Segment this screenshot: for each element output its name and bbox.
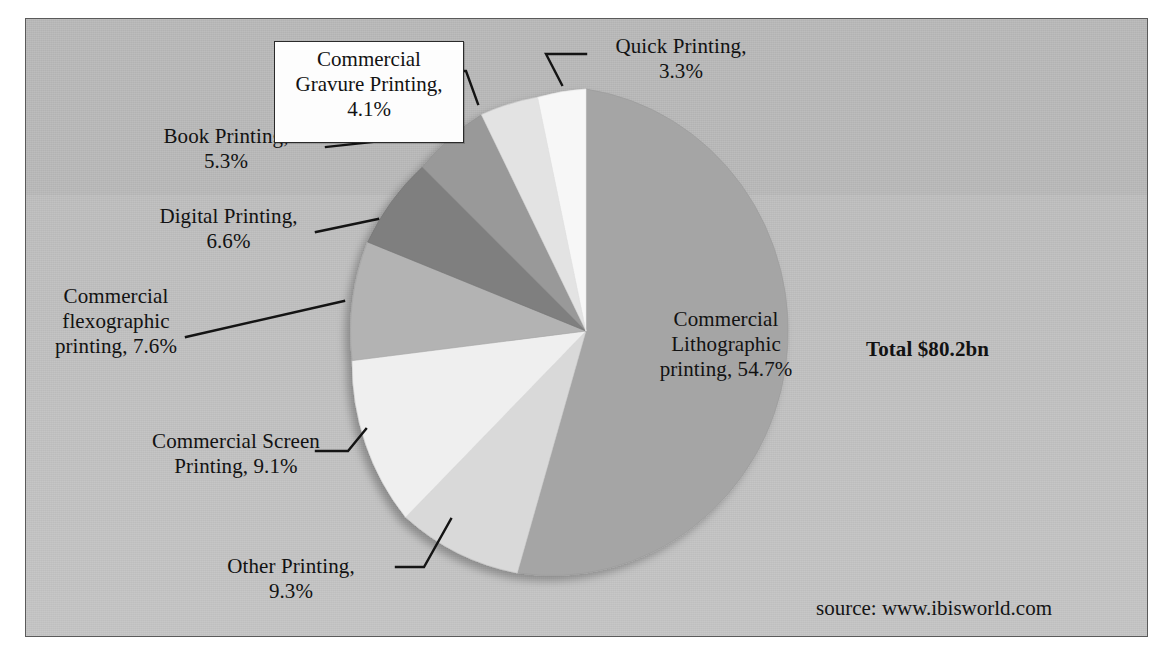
source-attribution: source: www.ibisworld.com [816,596,1052,621]
slice-label-flexographic: Commercial flexographic printing, 7.6% [25,284,211,359]
slice-label-other: Other Printing, 9.3% [181,554,401,604]
slice-label-screen: Commercial Screen Printing, 9.1% [121,429,351,479]
total-annotation: Total $80.2bn [866,337,1106,362]
chart-image: Commercial Lithographic printing, 54.7% … [0,0,1170,664]
slice-label-digital: Digital Printing, 6.6% [126,204,331,254]
slice-label-quick: Quick Printing, 3.3% [581,34,781,84]
chart-title-cropped [0,0,1170,16]
slice-label-lithographic: Commercial Lithographic printing, 54.7% [616,307,836,382]
leader-line-quick [546,54,586,85]
slice-callout-gravure[interactable]: Commercial Gravure Printing, 4.1% [274,41,464,143]
chart-plot-frame: Commercial Lithographic printing, 54.7% … [25,18,1148,637]
